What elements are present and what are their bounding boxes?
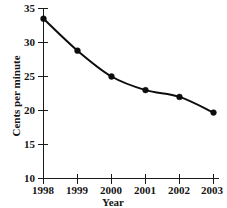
- x-axis-title: Year: [102, 196, 124, 208]
- x-tick-label-1998: 1998: [32, 184, 55, 196]
- data-series-cents-per-minute: [41, 16, 217, 116]
- y-tick-label-20: 20: [24, 104, 36, 116]
- data-point-1999: [75, 48, 81, 54]
- x-tick-label-2000: 2000: [100, 184, 123, 196]
- y-tick-label-15: 15: [24, 138, 36, 150]
- y-axis-tick-labels: 10 15 20 25 30 35: [24, 2, 36, 184]
- x-tick-label-2003: 2003: [201, 184, 224, 196]
- data-point-2000: [109, 74, 115, 80]
- y-tick-label-10: 10: [24, 172, 36, 184]
- data-point-2003: [211, 110, 217, 116]
- series-line-path: [44, 19, 214, 113]
- y-tick-label-25: 25: [24, 70, 36, 82]
- y-tick-label-30: 30: [24, 36, 36, 48]
- x-tick-label-2002: 2002: [168, 184, 191, 196]
- data-point-2002: [177, 94, 183, 100]
- data-point-2001: [143, 87, 149, 93]
- y-tick-label-35: 35: [24, 2, 36, 14]
- line-chart: 10 15 20 25 30 35 1998 1999 2000 2001 20…: [0, 0, 227, 208]
- data-point-1998: [41, 16, 47, 22]
- chart-plot-area: 10 15 20 25 30 35 1998 1999 2000 2001 20…: [0, 0, 227, 208]
- x-tick-label-1999: 1999: [66, 184, 89, 196]
- x-axis-tick-labels: 1998 1999 2000 2001 2002 2003: [32, 184, 224, 196]
- y-axis-title: Cents per minute: [10, 55, 22, 136]
- x-tick-label-2001: 2001: [134, 184, 156, 196]
